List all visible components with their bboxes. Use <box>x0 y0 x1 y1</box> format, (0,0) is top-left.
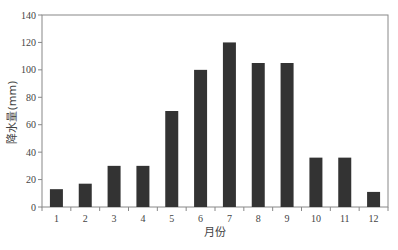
x-tick-label: 1 <box>54 213 59 224</box>
bar-month-5 <box>165 111 178 207</box>
x-tick-label: 4 <box>140 213 145 224</box>
precipitation-bar-chart: 020406080100120140 123456789101112 月份 降水… <box>0 0 398 250</box>
y-tick-label: 60 <box>26 119 36 130</box>
x-tick-label: 10 <box>311 213 321 224</box>
x-axis-ticks: 123456789101112 <box>42 207 388 224</box>
bars <box>50 42 380 207</box>
bar-month-4 <box>136 166 149 207</box>
x-tick-label: 11 <box>340 213 350 224</box>
y-tick-label: 120 <box>21 37 36 48</box>
y-tick-label: 100 <box>21 64 36 75</box>
bar-month-11 <box>338 158 351 207</box>
bar-month-2 <box>79 184 92 207</box>
bar-month-10 <box>309 158 322 207</box>
plot-frame <box>42 15 388 207</box>
plot-border <box>42 15 388 207</box>
x-tick-label: 6 <box>198 213 203 224</box>
bar-month-7 <box>223 42 236 207</box>
bar-month-12 <box>367 192 380 207</box>
bar-month-3 <box>108 166 121 207</box>
y-tick-label: 40 <box>26 147 36 158</box>
bar-month-8 <box>252 63 265 207</box>
x-tick-label: 2 <box>83 213 88 224</box>
x-axis-label: 月份 <box>204 226 226 239</box>
x-tick-label: 12 <box>369 213 379 224</box>
bar-month-1 <box>50 189 63 207</box>
y-tick-label: 0 <box>31 202 36 213</box>
x-tick-label: 9 <box>285 213 290 224</box>
bar-month-9 <box>281 63 294 207</box>
x-tick-label: 7 <box>227 213 232 224</box>
bar-month-6 <box>194 70 207 207</box>
x-tick-label: 8 <box>256 213 261 224</box>
x-tick-label: 5 <box>169 213 174 224</box>
y-tick-label: 140 <box>21 10 36 21</box>
y-axis-label: 降水量(mm) <box>5 80 19 143</box>
y-axis-ticks: 020406080100120140 <box>21 10 42 213</box>
x-tick-label: 3 <box>112 213 117 224</box>
y-tick-label: 80 <box>26 92 36 103</box>
y-tick-label: 20 <box>26 174 36 185</box>
